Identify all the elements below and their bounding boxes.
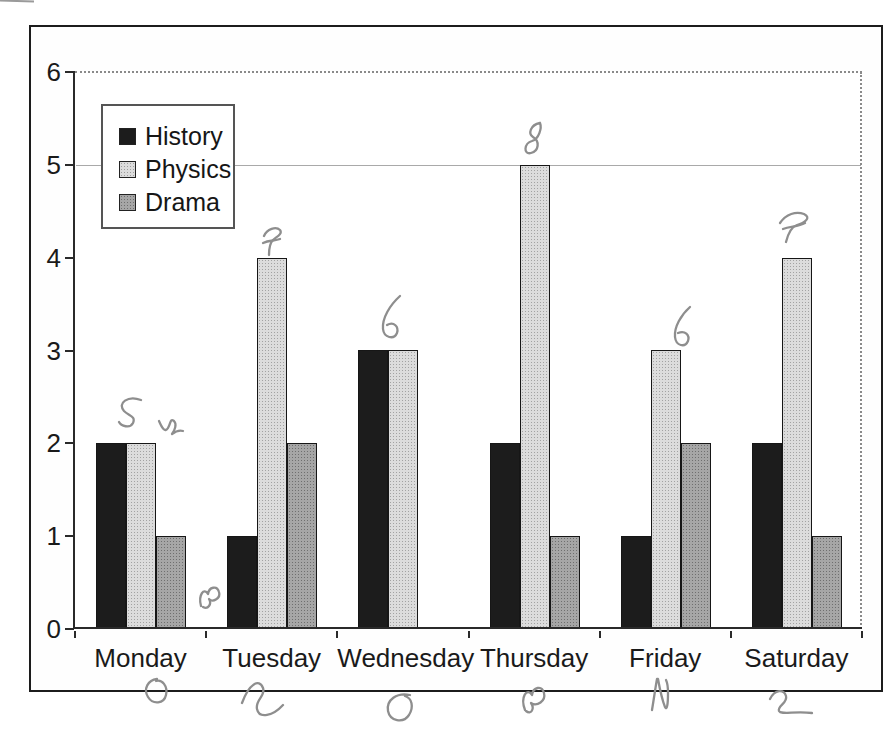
handwritten-digit-2 (155, 414, 185, 442)
y-tick-3 (65, 350, 74, 352)
legend-item-physics: Physics (119, 153, 233, 186)
handwritten-digit-6 (666, 304, 698, 350)
x-tick-5 (730, 631, 732, 638)
bar-physics-monday (126, 443, 156, 629)
y-tick-4 (65, 257, 74, 259)
legend-label-physics: Physics (145, 155, 231, 184)
y-tick-label-1: 1 (33, 523, 61, 549)
bar-physics-thursday (520, 165, 550, 629)
y-tick-label-5: 5 (33, 152, 61, 178)
bar-physics-saturday (782, 258, 812, 629)
y-tick-label-2: 2 (33, 430, 61, 456)
handwritten-digit-3 (518, 682, 554, 720)
x-axis-line (73, 627, 862, 629)
bar-history-saturday (752, 443, 782, 629)
bar-drama-thursday (550, 536, 580, 629)
legend-label-drama: Drama (145, 188, 220, 217)
gridline-y6-dotted (75, 71, 862, 73)
bar-history-friday (621, 536, 651, 629)
handwritten-digit-7 (261, 226, 285, 258)
legend: HistoryPhysicsDrama (101, 104, 235, 229)
bar-physics-wednesday (388, 350, 418, 629)
x-label-thursday: Thursday (469, 645, 600, 671)
x-label-saturday: Saturday (731, 645, 862, 671)
y-tick-0 (65, 628, 74, 630)
legend-swatch-drama-icon (119, 194, 136, 211)
x-label-friday: Friday (600, 645, 731, 671)
y-tick-label-3: 3 (33, 338, 61, 364)
handwritten-digit-6 (374, 292, 408, 342)
bar-drama-saturday (812, 536, 842, 629)
handwritten-digit-8 (514, 120, 548, 170)
handwritten-digit-2 (766, 686, 816, 718)
x-tick-2 (336, 631, 338, 638)
handwritten-digit-2 (646, 674, 674, 716)
bar-physics-friday (651, 350, 681, 629)
x-tick-0 (74, 631, 76, 638)
legend-item-drama: Drama (119, 186, 233, 219)
bar-physics-tuesday (257, 258, 287, 629)
scan-artifact-line (0, 0, 34, 2)
handwritten-digit-3 (196, 582, 226, 612)
x-label-wednesday: Wednesday (337, 645, 468, 671)
y-tick-2 (65, 442, 74, 444)
x-label-tuesday: Tuesday (206, 645, 337, 671)
handwritten-digit-0 (140, 676, 172, 710)
handwritten-digit-5 (114, 396, 146, 430)
x-label-monday: Monday (75, 645, 206, 671)
y-tick-6 (65, 71, 74, 73)
bar-drama-tuesday (287, 443, 317, 629)
x-tick-1 (205, 631, 207, 638)
y-tick-label-6: 6 (33, 59, 61, 85)
bar-drama-friday (681, 443, 711, 629)
legend-swatch-physics-icon (119, 161, 136, 178)
handwritten-digit-0 (380, 690, 422, 726)
bar-history-wednesday (358, 350, 388, 629)
bar-history-tuesday (227, 536, 257, 629)
handwritten-digit-7 (776, 210, 816, 246)
handwritten-digit-3 (238, 676, 296, 726)
bar-history-monday (96, 443, 126, 629)
x-tick-3 (468, 631, 470, 638)
x-tick-4 (599, 631, 601, 638)
x-tick-6 (861, 631, 863, 638)
y-tick-5 (65, 164, 74, 166)
y-tick-1 (65, 535, 74, 537)
plot-right-border-dotted (860, 72, 862, 629)
legend-swatch-history-icon (119, 128, 136, 145)
legend-label-history: History (145, 122, 223, 151)
y-tick-label-4: 4 (33, 245, 61, 271)
bar-drama-monday (156, 536, 186, 629)
legend-item-history: History (119, 120, 233, 153)
bar-history-thursday (490, 443, 520, 629)
scanned-chart-page: 0123456 MondayTuesdayWednesdayThursdayFr… (0, 0, 895, 732)
y-tick-label-0: 0 (33, 616, 61, 642)
